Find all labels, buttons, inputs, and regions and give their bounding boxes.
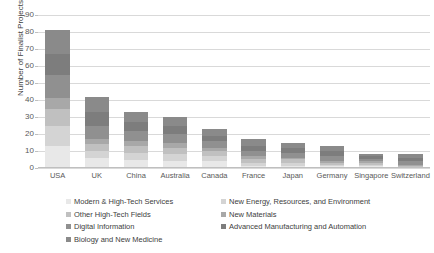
x-axis-line [38,167,430,168]
legend-column-right: New Energy, Resources, and EnvironmentNe… [221,196,426,234]
bar-segment[interactable] [45,146,69,168]
bar-slot [391,15,430,168]
legend-label: Modern & High-Tech Services [74,196,173,208]
x-axis-tick-label: Switzerland [391,170,430,182]
bar-segment[interactable] [45,98,69,108]
chart-legend: Modern & High-Tech ServicesOther High-Te… [66,196,426,246]
plot-area: 0102030405060708090 [38,15,430,168]
bar-segment[interactable] [124,122,148,131]
bar-slot [195,15,234,168]
y-axis-tick-label: 60 [25,62,34,70]
stacked-bar[interactable] [202,129,226,168]
stacked-bar[interactable] [85,97,109,168]
stacked-bar[interactable] [241,139,265,168]
x-axis-tick-label: China [116,170,155,182]
bar-slot [77,15,116,168]
bar-segment[interactable] [45,126,69,146]
bar-segment[interactable] [241,139,265,146]
bar-slot [116,15,155,168]
x-axis-tick-label: Australia [156,170,195,182]
bar-slot [273,15,312,168]
legend-item[interactable]: New Energy, Resources, and Environment [221,196,426,208]
legend-swatch-icon [221,212,226,217]
x-axis-tick-label: Canada [195,170,234,182]
y-axis-tick-label: 10 [25,147,34,155]
legend-label: Digital Information [74,221,134,233]
stacked-bar[interactable] [281,143,305,169]
bar-segment[interactable] [85,151,109,158]
bar-segment[interactable] [124,153,148,160]
x-axis-tick-label: France [234,170,273,182]
stacked-bar[interactable] [320,146,344,168]
legend-item[interactable]: New Materials [221,209,426,221]
bar-segment[interactable] [45,75,69,99]
bar-segment[interactable] [202,141,226,148]
bar-slot [38,15,77,168]
y-axis-tick-label: 80 [25,28,34,36]
y-axis-tick-label: 0 [30,164,34,172]
bar-slot [156,15,195,168]
legend-swatch-icon [66,224,71,229]
legend-swatch-icon [66,199,71,204]
x-axis-tick-label: Japan [273,170,312,182]
x-axis-tick-label: Germany [312,170,351,182]
bar-slot [352,15,391,168]
legend-label: New Materials [229,209,277,221]
y-axis-tick-label: 90 [25,11,34,19]
bars-layer [38,15,430,168]
legend-swatch-icon [221,199,226,204]
legend-label: Other High-Tech Fields [74,209,151,221]
bar-segment[interactable] [45,54,69,74]
bar-segment[interactable] [45,30,69,54]
legend-label: Advanced Manufacturing and Automation [229,221,366,233]
stacked-bar[interactable] [359,154,383,168]
legend-item[interactable]: Other High-Tech Fields [66,209,221,221]
bar-segment[interactable] [85,112,109,126]
bar-segment[interactable] [85,97,109,112]
bar-slot [234,15,273,168]
y-axis-tick-label: 20 [25,130,34,138]
stacked-bar[interactable] [163,117,187,168]
bar-segment[interactable] [85,144,109,151]
legend-item[interactable]: Modern & High-Tech Services [66,196,221,208]
bar-segment[interactable] [163,126,187,135]
legend-item[interactable]: Biology and New Medicine [66,234,221,246]
bar-segment[interactable] [45,109,69,126]
y-axis-tick-label: 40 [25,96,34,104]
y-axis-tick-label: 50 [25,79,34,87]
legend-item[interactable]: Advanced Manufacturing and Automation [221,221,426,233]
legend-item[interactable]: Digital Information [66,221,221,233]
legend-swatch-icon [66,212,71,217]
bar-segment[interactable] [163,148,187,155]
bar-segment[interactable] [163,134,187,143]
bar-slot [312,15,351,168]
bar-segment[interactable] [124,112,148,122]
bar-segment[interactable] [163,117,187,126]
stacked-bar[interactable] [124,112,148,168]
bar-segment[interactable] [124,146,148,153]
y-axis-tick-label: 30 [25,113,34,121]
stacked-bar-chart: Number of Finalist Projects 010203040506… [0,0,434,253]
x-axis-tick-label: USA [38,170,77,182]
gridline [38,168,430,169]
x-axis-tick-labels: USAUKChinaAustraliaCanadaFranceJapanGerm… [38,170,430,182]
bar-segment[interactable] [202,129,226,136]
legend-swatch-icon [66,237,71,242]
stacked-bar[interactable] [45,30,69,168]
legend-swatch-icon [221,224,226,229]
legend-column-left: Modern & High-Tech ServicesOther High-Te… [66,196,221,246]
bar-segment[interactable] [163,154,187,161]
bar-segment[interactable] [85,126,109,140]
y-axis-tick-mark [35,168,38,169]
y-axis-tick-label: 70 [25,45,34,53]
legend-label: New Energy, Resources, and Environment [229,196,370,208]
legend-label: Biology and New Medicine [74,234,162,246]
x-axis-tick-label: UK [77,170,116,182]
stacked-bar[interactable] [398,154,422,168]
x-axis-tick-label: Singapore [352,170,391,182]
bar-segment[interactable] [124,131,148,141]
